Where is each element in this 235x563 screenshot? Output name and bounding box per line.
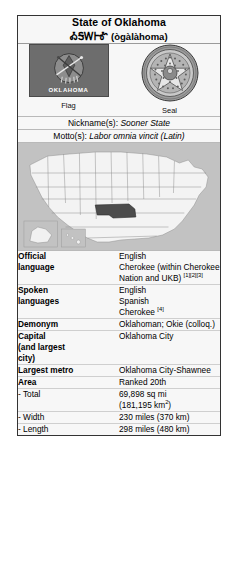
area-total-value: 69,898 sq mi (181,195 km2): [119, 389, 220, 412]
infobox-motto-row: Motto(s): Labor omnia vincit (Latin): [18, 130, 220, 143]
spoken-languages-refs[interactable]: [4]: [157, 306, 163, 312]
demonym-value: Oklahoman; Okie (colloq.): [119, 319, 220, 331]
infobox-table: State of Oklahoma ᎣᎦᎳᎰᎹ (ògàlàhoma): [18, 16, 220, 435]
largest-metro-value: Oklahoma City-Shawnee: [119, 365, 220, 377]
area-rank-value: Ranked 20th: [119, 377, 220, 389]
motto-value: Labor omnia vincit (Latin): [89, 131, 184, 141]
infobox-emblem-row: OKLAHOMA Flag: [18, 44, 220, 117]
seal-block: Seal: [122, 44, 218, 116]
official-language-value-line3-text: Nation and UKB): [119, 273, 181, 283]
native-name: ᎣᎦᎳᎰᎹ (ògàlàhoma): [18, 30, 220, 43]
area-length-label: - Length: [18, 424, 119, 436]
largest-metro-label: Largest metro: [18, 365, 119, 377]
spoken-languages-value-line3: Cherokee [4]: [119, 307, 220, 318]
infobox-nickname-row: Nickname(s): Sooner State: [18, 117, 220, 130]
official-language-value-line2: Cherokee (within Cherokee: [119, 262, 220, 273]
row-area: Area Ranked 20th: [18, 377, 220, 389]
flag-word-label: OKLAHOMA: [30, 87, 108, 93]
area-total-metric-suffix: ): [168, 400, 171, 410]
row-spoken-languages: Spoken languages English Spanish Cheroke…: [18, 285, 220, 319]
page-root: State of Oklahoma ᎣᎦᎳᎰᎹ (ògàlàhoma): [0, 0, 235, 563]
row-largest-metro: Largest metro Oklahoma City-Shawnee: [18, 365, 220, 377]
spoken-languages-label-line1: Spoken: [18, 285, 119, 296]
official-language-label-line2: language: [18, 262, 119, 273]
capital-label: Capital (and largest city): [18, 331, 119, 365]
official-language-value-line3: Nation and UKB) [1][2][3]: [119, 273, 220, 284]
oklahoma-state-infobox: State of Oklahoma ᎣᎦᎳᎰᎹ (ògàlàhoma): [17, 15, 221, 436]
official-language-value: English Cherokee (within Cherokee Nation…: [119, 251, 220, 285]
area-total-metric-prefix: (181,195 km: [119, 400, 165, 410]
spoken-languages-label-line2: languages: [18, 296, 119, 307]
spoken-languages-value-line2: Spanish: [119, 296, 220, 307]
infobox-title-row: State of Oklahoma ᎣᎦᎳᎰᎹ (ògàlàhoma): [18, 16, 220, 44]
spoken-languages-value-line3-text: Cherokee: [119, 307, 155, 317]
row-capital: Capital (and largest city) Oklahoma City: [18, 331, 220, 365]
native-name-romanized: (ògàlàhoma): [111, 31, 167, 42]
area-label: Area: [18, 377, 119, 389]
row-area-length: - Length 298 miles (480 km): [18, 424, 220, 436]
infobox-map-row: [18, 143, 220, 251]
area-total-metric: (181,195 km2): [119, 400, 220, 411]
official-language-value-line1: English: [119, 251, 220, 262]
row-demonym: Demonym Oklahoman; Okie (colloq.): [18, 319, 220, 331]
area-width-label: - Width: [18, 412, 119, 424]
page-title: State of Oklahoma: [18, 16, 220, 29]
official-language-label: Official language: [18, 251, 119, 285]
capital-label-line2: (and largest: [18, 342, 119, 353]
official-language-refs[interactable]: [1][2][3]: [184, 272, 203, 278]
row-official-language: Official language English Cherokee (with…: [18, 251, 220, 285]
capital-value: Oklahoma City: [119, 331, 220, 365]
seal-caption: Seal: [122, 105, 218, 116]
demonym-label: Demonym: [18, 319, 119, 331]
us-map-oklahoma-highlighted[interactable]: [18, 143, 220, 250]
official-language-label-line1: Official: [18, 251, 119, 262]
flag-caption: Flag: [21, 100, 117, 111]
oklahoma-flag-icon[interactable]: OKLAHOMA: [29, 44, 109, 97]
nickname-label: Nickname(s):: [68, 118, 118, 128]
oklahoma-seal-icon[interactable]: [141, 44, 199, 102]
infobox-title-cell: State of Oklahoma ᎣᎦᎳᎰᎹ (ògàlàhoma): [18, 16, 220, 44]
capital-label-line3: city): [18, 353, 119, 364]
infobox-emblem-cell: OKLAHOMA Flag: [18, 44, 220, 117]
motto-label: Motto(s):: [53, 131, 87, 141]
capital-label-line1: Capital: [18, 331, 119, 342]
spoken-languages-label: Spoken languages: [18, 285, 119, 319]
map-cell: [18, 143, 220, 251]
native-name-cherokee: ᎣᎦᎳᎰᎹ: [70, 31, 108, 42]
row-area-total: - Total 69,898 sq mi (181,195 km2): [18, 389, 220, 412]
nickname-value: Sooner State: [120, 118, 170, 128]
spoken-languages-value-line1: English: [119, 285, 220, 296]
flag-block: OKLAHOMA Flag: [21, 44, 117, 111]
area-length-value: 298 miles (480 km): [119, 424, 220, 436]
area-total-imperial: 69,898 sq mi: [119, 389, 220, 400]
motto-cell: Motto(s): Labor omnia vincit (Latin): [18, 130, 220, 143]
row-area-width: - Width 230 miles (370 km): [18, 412, 220, 424]
area-total-label: - Total: [18, 389, 119, 412]
area-width-value: 230 miles (370 km): [119, 412, 220, 424]
spoken-languages-value: English Spanish Cherokee [4]: [119, 285, 220, 319]
nickname-cell: Nickname(s): Sooner State: [18, 117, 220, 130]
